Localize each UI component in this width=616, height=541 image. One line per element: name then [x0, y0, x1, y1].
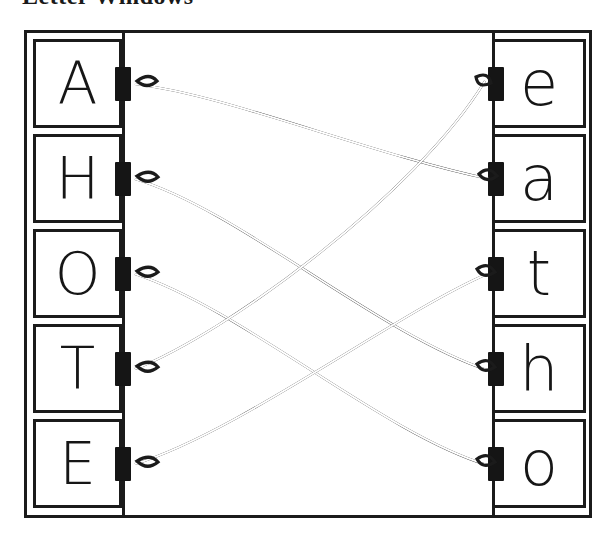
card-lowercase-a[interactable]: a: [492, 134, 586, 223]
connector-tab-uppercase-t[interactable]: [115, 352, 131, 386]
connector-tab-uppercase-e[interactable]: [115, 447, 131, 481]
letter-glyph: T: [60, 340, 95, 398]
cord-e-to-t[interactable]: [135, 266, 495, 467]
cord-h-to-h[interactable]: [135, 172, 495, 370]
cord-t-to-e[interactable]: [135, 75, 491, 371]
uppercase-column: A H O T E: [27, 33, 122, 515]
card-uppercase-a[interactable]: A: [33, 39, 122, 128]
card-uppercase-t[interactable]: T: [33, 324, 122, 413]
letter-glyph: h: [519, 338, 558, 400]
card-uppercase-o[interactable]: O: [33, 229, 122, 318]
page-title: Letter Windows: [22, 0, 194, 10]
letter-glyph: t: [527, 243, 551, 305]
connector-tab-lowercase-o[interactable]: [488, 447, 504, 481]
letter-glyph: A: [58, 55, 98, 113]
connector-tab-uppercase-a[interactable]: [115, 67, 131, 101]
letter-glyph: O: [55, 245, 101, 303]
connector-tab-uppercase-o[interactable]: [115, 257, 131, 291]
card-lowercase-t[interactable]: t: [492, 229, 586, 318]
letter-matching-board: A H O T E e a t h o: [24, 30, 592, 518]
letter-glyph: H: [56, 150, 100, 208]
cord-a-to-a[interactable]: [135, 77, 497, 180]
letter-glyph: o: [520, 433, 558, 495]
card-uppercase-e[interactable]: E: [33, 419, 122, 508]
letter-glyph: E: [59, 435, 96, 493]
card-lowercase-o[interactable]: o: [492, 419, 586, 508]
cord-o-to-o[interactable]: [135, 267, 495, 465]
letter-glyph: e: [520, 53, 558, 115]
connector-tab-lowercase-a[interactable]: [488, 162, 504, 196]
connector-tab-lowercase-h[interactable]: [488, 352, 504, 386]
card-uppercase-h[interactable]: H: [33, 134, 122, 223]
connector-tab-uppercase-h[interactable]: [115, 162, 131, 196]
card-lowercase-e[interactable]: e: [492, 39, 586, 128]
connector-tab-lowercase-e[interactable]: [488, 67, 504, 101]
card-lowercase-h[interactable]: h: [492, 324, 586, 413]
page-title-bar: Letter Windows: [0, 0, 616, 11]
letter-glyph: a: [520, 148, 558, 210]
lowercase-column: e a t h o: [492, 33, 592, 515]
connector-tab-lowercase-t[interactable]: [488, 257, 504, 291]
